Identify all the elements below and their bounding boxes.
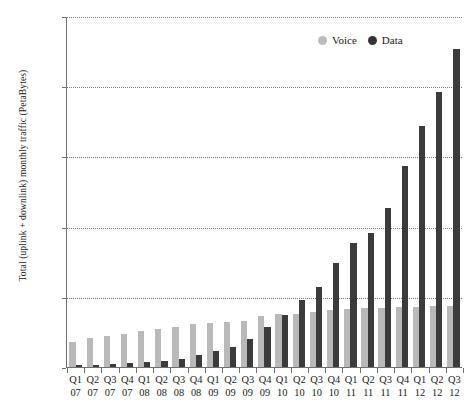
bar-group	[239, 17, 256, 367]
bar-group	[428, 17, 445, 367]
bar-group	[290, 17, 307, 367]
bar-data	[247, 339, 253, 367]
legend-item-data: Data	[368, 34, 403, 46]
bar-group	[256, 17, 273, 367]
plot-area: 02004006008001,000	[66, 17, 462, 368]
bar-data	[93, 365, 99, 367]
bar-group	[445, 17, 462, 367]
x-axis-tick-mark	[446, 368, 447, 373]
bar-voice	[69, 342, 75, 367]
bar-data	[264, 327, 270, 367]
y-axis-tick-mark	[62, 87, 66, 88]
y-axis-title: Total (uplink + downlink) monthly traffi…	[17, 6, 28, 346]
x-axis-tick-mark	[325, 368, 326, 373]
bar-group	[359, 17, 376, 367]
y-axis-tick-mark	[62, 368, 66, 369]
chart-legend: Voice Data	[318, 34, 403, 46]
x-axis-tick-mark	[222, 368, 223, 373]
bar-data	[385, 208, 391, 367]
y-axis-tick-mark	[62, 228, 66, 229]
bar-data	[282, 315, 288, 367]
x-axis-tick-mark	[84, 368, 85, 373]
bar-data	[316, 287, 322, 367]
legend-swatch-data-icon	[368, 36, 377, 45]
x-axis-tick-mark	[463, 368, 464, 373]
x-axis-tick-mark	[119, 368, 120, 373]
x-axis-tick-mark	[170, 368, 171, 373]
x-axis-ticks	[67, 368, 463, 373]
bar-data	[333, 263, 339, 367]
bar-group	[376, 17, 393, 367]
bar-voice	[104, 336, 110, 367]
bar-voice	[87, 338, 93, 367]
bar-data	[230, 347, 236, 367]
bar-group	[67, 17, 84, 367]
bar-data	[402, 166, 408, 367]
x-axis-tick-mark	[101, 368, 102, 373]
bar-data	[350, 243, 356, 367]
bar-data	[419, 126, 425, 367]
x-axis-tick-mark	[205, 368, 206, 373]
bar-data	[127, 363, 133, 367]
bar-data	[196, 355, 202, 367]
x-axis-labels: Q107Q207Q307Q407Q108Q208Q308Q408Q109Q209…	[67, 374, 463, 414]
x-axis-tick-mark	[291, 368, 292, 373]
x-axis-tick-mark	[360, 368, 361, 373]
y-axis-tick-mark	[62, 157, 66, 158]
bar-data	[110, 364, 116, 367]
legend-item-voice: Voice	[318, 34, 357, 46]
x-axis-tick-mark	[394, 368, 395, 373]
x-axis-tick-mark	[377, 368, 378, 373]
y-axis-tick-mark	[62, 17, 66, 18]
bar-data	[436, 92, 442, 367]
bar-chart: Total (uplink + downlink) monthly traffi…	[0, 0, 468, 418]
bar-group	[342, 17, 359, 367]
bar-series-container	[67, 17, 462, 367]
x-axis-tick-mark	[308, 368, 309, 373]
bar-group	[273, 17, 290, 367]
bar-data	[368, 233, 374, 367]
x-axis-tick-mark	[342, 368, 343, 373]
bar-voice	[121, 334, 127, 367]
legend-label-voice: Voice	[332, 34, 357, 46]
bar-data	[144, 362, 150, 367]
bar-group	[136, 17, 153, 367]
legend-swatch-voice-icon	[318, 36, 327, 45]
bar-data	[213, 351, 219, 367]
x-axis-tick-mark	[239, 368, 240, 373]
bar-group	[410, 17, 427, 367]
bar-group	[325, 17, 342, 367]
bar-data	[161, 361, 167, 367]
bar-group	[222, 17, 239, 367]
bar-group	[187, 17, 204, 367]
x-axis-tick-mark	[188, 368, 189, 373]
bar-data	[179, 359, 185, 367]
bar-group	[101, 17, 118, 367]
bar-data	[453, 49, 459, 367]
x-axis-tick-mark	[153, 368, 154, 373]
x-label-year: 12	[440, 387, 468, 400]
x-label-quarter: Q3	[440, 374, 468, 387]
x-axis-tick-mark	[429, 368, 430, 373]
bar-group	[170, 17, 187, 367]
x-axis-tick-mark	[411, 368, 412, 373]
legend-label-data: Data	[382, 34, 403, 46]
x-axis-tick-mark	[256, 368, 257, 373]
bar-group	[119, 17, 136, 367]
bar-group	[393, 17, 410, 367]
x-axis-tick-label: Q312	[440, 374, 468, 399]
bar-group	[204, 17, 221, 367]
x-axis-tick-mark	[67, 368, 68, 373]
x-axis-tick-mark	[136, 368, 137, 373]
bar-group	[153, 17, 170, 367]
x-axis-tick-mark	[274, 368, 275, 373]
bar-group	[307, 17, 324, 367]
y-axis-tick-mark	[62, 298, 66, 299]
bar-data	[76, 365, 82, 367]
bar-data	[299, 300, 305, 367]
bar-group	[84, 17, 101, 367]
